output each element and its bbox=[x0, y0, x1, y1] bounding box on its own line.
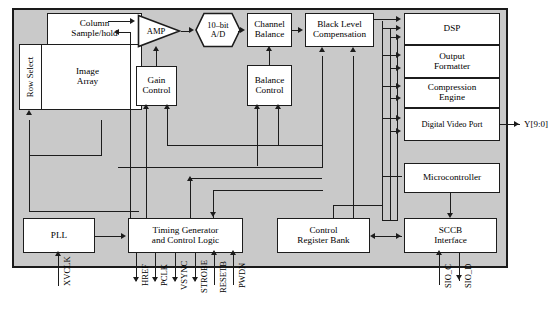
wire-mcu-to-sccb bbox=[450, 193, 451, 214]
arrow-amp-to-ad bbox=[189, 27, 194, 33]
bus-tap-of-1 bbox=[382, 55, 396, 56]
arrow-pin-pclk bbox=[152, 277, 158, 282]
block-microcontroller[interactable]: Microcontroller bbox=[404, 163, 500, 193]
arrow-balance-control-to-channel-balance bbox=[266, 46, 272, 51]
block-ad-converter[interactable]: 10–bit A/D bbox=[195, 12, 241, 48]
timing-generator-line1: Timing Generator bbox=[152, 226, 219, 236]
wire-blc-in-left-vert bbox=[322, 56, 323, 168]
block-compression-engine[interactable]: Compression Engine bbox=[404, 78, 500, 108]
wire-timing-to-rowselect-v bbox=[29, 120, 30, 212]
wire-pin-xvclk bbox=[58, 254, 59, 286]
wire-timing-to-csh-v bbox=[130, 32, 131, 218]
wire-rowselect-bus-h bbox=[29, 155, 102, 156]
block-channel-balance[interactable]: Channel Balance bbox=[247, 13, 292, 47]
arrow-bus-compression-1 bbox=[396, 83, 401, 89]
balance-control-line1: Balance bbox=[255, 76, 285, 86]
arrow-pin-sio-c bbox=[436, 250, 442, 255]
wire-gain-in-2-h bbox=[167, 145, 323, 146]
wire-pin-sio-c bbox=[439, 253, 440, 285]
row-select-label: Row Select bbox=[26, 57, 36, 97]
arrow-bus-dvp-1 bbox=[396, 115, 401, 121]
block-amp[interactable]: AMP bbox=[137, 14, 181, 48]
pin-label-sio-c: SIO_C bbox=[443, 264, 453, 288]
block-image-array[interactable]: Image Array bbox=[33, 44, 142, 110]
arrow-crb-to-timing bbox=[210, 212, 216, 217]
ad-label-line2: A/D bbox=[211, 30, 225, 39]
arrow-pin-strobe bbox=[192, 277, 198, 282]
output-formatter-line1: Output bbox=[434, 52, 470, 62]
block-pll[interactable]: PLL bbox=[23, 218, 95, 253]
arrow-crb-to-sccb bbox=[396, 233, 401, 239]
bus-bottom-join bbox=[382, 220, 398, 221]
gain-control-line2: Control bbox=[142, 86, 170, 96]
pin-label-href: HREF bbox=[140, 264, 150, 286]
bus-tap-ce-1 bbox=[382, 86, 396, 87]
bus-line-middle bbox=[390, 28, 391, 221]
bus-crb-link-v bbox=[333, 205, 334, 219]
arrow-timing-to-csh bbox=[114, 29, 119, 35]
arrow-pin-pwdn bbox=[230, 250, 236, 255]
arrow-pin-resetb bbox=[211, 250, 217, 255]
wire-pin-pwdn bbox=[233, 253, 234, 285]
wire-crb-to-timing-h bbox=[213, 190, 323, 191]
block-output-formatter[interactable]: Output Formatter bbox=[404, 45, 500, 78]
arrow-timing-to-row-select bbox=[26, 110, 32, 115]
arrow-balance-input-1 bbox=[254, 104, 260, 109]
arrow-pin-xvclk bbox=[55, 251, 61, 256]
image-array-line2: Array bbox=[76, 77, 99, 87]
bus-tap-mcu bbox=[382, 176, 402, 177]
block-gain-control[interactable]: Gain Control bbox=[136, 66, 177, 106]
wire-timing-left-h bbox=[29, 211, 139, 212]
pin-label-resetb: RESETB bbox=[218, 261, 228, 293]
block-black-level-compensation[interactable]: Black Level Compensation bbox=[305, 13, 374, 47]
block-row-select[interactable]: Row Select bbox=[19, 44, 42, 110]
block-timing-generator[interactable]: Timing Generator and Control Logic bbox=[128, 218, 243, 253]
bus-line-outer bbox=[382, 21, 383, 221]
control-register-bank-line1: Control bbox=[297, 226, 349, 236]
pin-label-vsync: VSYNC bbox=[179, 261, 189, 290]
arrow-bus-output-formatter-1 bbox=[396, 52, 401, 58]
block-diagram-canvas: Image Array Column Sample/hold Row Selec… bbox=[0, 0, 560, 330]
wire-balctl-in-1 bbox=[257, 106, 258, 166]
arrow-bus-dvp-2 bbox=[396, 128, 401, 134]
wire-balctl-to-cb bbox=[269, 49, 270, 65]
arrow-blc-input-right bbox=[350, 47, 356, 52]
arrow-mcu-to-sccb bbox=[447, 213, 453, 218]
arrow-gain-input-2 bbox=[164, 104, 170, 109]
arrow-balance-input-2 bbox=[275, 104, 281, 109]
arrow-gain-to-amp bbox=[153, 46, 159, 51]
bus-crb-link-h bbox=[333, 205, 383, 206]
block-dsp[interactable]: DSP bbox=[404, 13, 500, 45]
black-level-line2: Compensation bbox=[313, 30, 366, 40]
block-balance-control[interactable]: Balance Control bbox=[247, 65, 292, 106]
control-register-bank-line2: Register Bank bbox=[297, 236, 349, 246]
wire-rowselect-bus-v2 bbox=[101, 120, 102, 156]
wire-balctl-in-2 bbox=[278, 106, 279, 146]
arrow-pll-to-timing bbox=[121, 233, 126, 239]
arrow-pin-href bbox=[133, 277, 139, 282]
microcontroller-label: Microcontroller bbox=[423, 173, 481, 183]
column-sample-hold-line2: Sample/hold bbox=[71, 29, 117, 39]
wire-blc-in-right-vert bbox=[353, 56, 354, 218]
wire-gain-in-1 bbox=[146, 106, 147, 218]
balance-control-line2: Control bbox=[255, 86, 285, 96]
sccb-line2: Interface bbox=[434, 236, 467, 246]
pin-label-sio-d: SIO_D bbox=[463, 264, 473, 288]
block-column-sample-hold[interactable]: Column Sample/hold bbox=[47, 13, 142, 45]
arrow-blc-to-dsp bbox=[396, 16, 401, 22]
arrow-bus-output-formatter-2 bbox=[396, 65, 401, 71]
block-control-register-bank[interactable]: Control Register Bank bbox=[277, 218, 370, 253]
dsp-label: DSP bbox=[444, 24, 461, 34]
wire-blc-left-bus-horizontal bbox=[118, 167, 323, 168]
arrow-bus-dsp-2 bbox=[396, 34, 401, 40]
channel-balance-line2: Balance bbox=[254, 30, 285, 40]
block-digital-video-port[interactable]: Digital Video Port bbox=[404, 108, 500, 141]
bus-tap-dsp-1 bbox=[382, 28, 396, 29]
block-sccb-interface[interactable]: SCCB Interface bbox=[404, 218, 497, 253]
pin-label-xvclk: XVCLK bbox=[62, 256, 72, 286]
bus-tap-dvp-1 bbox=[382, 118, 396, 119]
arrow-y-bus bbox=[514, 121, 519, 127]
pll-label: PLL bbox=[51, 231, 67, 241]
wire-timing-up-h bbox=[190, 178, 322, 179]
output-formatter-line2: Formatter bbox=[434, 62, 470, 72]
